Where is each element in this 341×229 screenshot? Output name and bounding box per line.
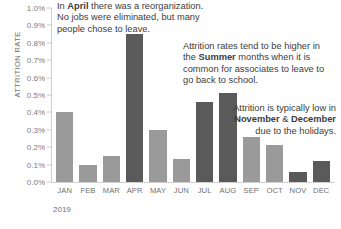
bar-jan [56, 112, 73, 182]
x-axis-labels: JANFEBMARAPRMAYJUNJULAUGSEPOCTNOVDEC [51, 186, 335, 195]
x-axis-tick-label: OCT [263, 186, 286, 195]
annotation-april: In April there was a reorganization. No … [57, 1, 205, 35]
y-axis-tick-label: 0.0% [27, 178, 45, 187]
annotation-holidays: Attrition is typically low in November &… [232, 103, 336, 137]
bar-feb [79, 165, 96, 182]
bar-apr [126, 34, 143, 182]
y-axis-tick-label: 1.0% [27, 4, 45, 13]
annotation-summer: Attrition rates tend to be higher in the… [183, 41, 335, 87]
x-axis-line [51, 182, 335, 183]
bar-slot [240, 8, 263, 182]
x-axis-tick-label: MAY [146, 186, 169, 195]
y-axis-tick-label: 0.6% [27, 73, 45, 82]
bar-slot [216, 8, 239, 182]
y-axis-tick-label: 0.3% [27, 125, 45, 134]
x-axis-tick-label: SEP [240, 186, 263, 195]
bar-jul [196, 102, 213, 182]
bar-sep [243, 137, 260, 182]
x-axis-tick-label: NOV [286, 186, 309, 195]
bar-mar [103, 156, 120, 182]
x-axis-tick-label: AUG [216, 186, 239, 195]
bar-jun [173, 159, 190, 182]
bar-slot [286, 8, 309, 182]
x-axis-tick-label: FEB [76, 186, 99, 195]
y-axis-tick-label: 0.7% [27, 56, 45, 65]
bar-may [149, 130, 166, 182]
bar-slot [310, 8, 333, 182]
annotation-text-run: Attrition is typically low in [233, 103, 336, 113]
x-axis-tick-label: JAN [53, 186, 76, 195]
x-axis-tick-label: JUN [170, 186, 193, 195]
annotation-text-run: December [291, 114, 336, 124]
x-axis-tick-label: APR [123, 186, 146, 195]
y-axis-tick-label: 0.9% [27, 21, 45, 30]
y-axis-tick-layer: 0.0%0.1%0.2%0.3%0.4%0.5%0.6%0.7%0.8%0.9%… [0, 8, 51, 182]
bar-nov [289, 172, 306, 182]
annotation-text-run: April [67, 1, 88, 11]
x-axis-tick-label: DEC [310, 186, 333, 195]
x-axis-tick-label: JUL [193, 186, 216, 195]
annotation-text-run: & [280, 114, 291, 124]
annotation-text-run: November [234, 114, 279, 124]
x-axis-tick-label: MAR [100, 186, 123, 195]
bar-slot [263, 8, 286, 182]
x-axis-year-label: 2019 [53, 205, 71, 214]
y-axis-tick-label: 0.4% [27, 108, 45, 117]
annotation-text-run: due to the holidays. [255, 126, 336, 136]
y-axis-tick-label: 0.5% [27, 91, 45, 100]
y-axis-tick-label: 0.8% [27, 38, 45, 47]
annotation-text-run: Summer [199, 52, 236, 62]
y-axis-tick-label: 0.2% [27, 143, 45, 152]
bar-oct [266, 145, 283, 182]
bar-dec [313, 161, 330, 182]
attrition-rate-bar-chart: ATTRITION RATE 0.0%0.1%0.2%0.3%0.4%0.5%0… [0, 0, 341, 229]
annotation-text-run: In [57, 1, 67, 11]
y-axis-tick-label: 0.1% [27, 160, 45, 169]
